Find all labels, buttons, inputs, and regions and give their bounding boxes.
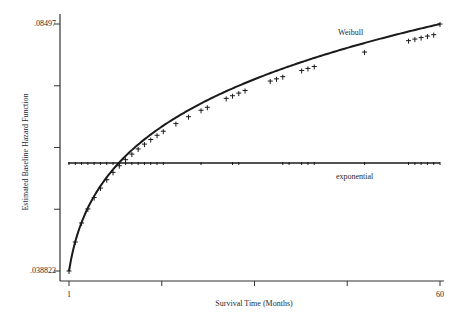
- y-axis-title: Estimated Baseline Hazard Function: [21, 93, 30, 210]
- y-tick-label-bottom: .038822: [0, 266, 56, 275]
- y-tick-label-top: .08497: [0, 19, 56, 28]
- x-tick-label-left: 1: [54, 290, 84, 299]
- axes: [54, 14, 444, 286]
- series-group: [67, 22, 443, 274]
- x-tick-label-right: 60: [425, 290, 455, 299]
- exponential-series-label: exponential: [336, 172, 373, 181]
- x-axis-title: Survival Time (Months): [215, 299, 292, 308]
- weibull-series-label: Weibull: [338, 28, 363, 37]
- weibull-curve: [69, 24, 440, 271]
- hazard-chart: [0, 0, 468, 325]
